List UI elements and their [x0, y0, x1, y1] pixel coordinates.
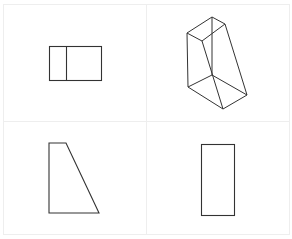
isometric-edge: [223, 95, 247, 109]
panel-grid: [3, 4, 290, 235]
isometric-edge: [187, 33, 188, 87]
three-view-diagram: Front view Isometric view Side view Top …: [0, 0, 292, 239]
front-view: [50, 47, 102, 81]
isometric-edge: [212, 17, 225, 24]
isometric-edge: [188, 87, 223, 109]
top-view-rectangle: [202, 145, 235, 216]
top-view: [202, 145, 235, 216]
side-view: [49, 143, 99, 213]
diagram-svg: [0, 0, 292, 239]
side-view-trapezoid: [49, 143, 99, 213]
isometric-edge: [202, 24, 225, 41]
isometric-edge: [187, 17, 212, 33]
front-view-rectangle: [50, 47, 102, 81]
isometric-edge: [188, 75, 212, 87]
isometric-view: [187, 17, 247, 109]
isometric-edge: [187, 33, 202, 41]
